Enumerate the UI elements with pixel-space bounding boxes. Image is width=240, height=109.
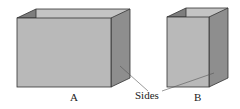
box-a-front-face — [17, 18, 111, 87]
box-a — [17, 9, 130, 87]
box-a-side-face — [111, 9, 130, 87]
open-boxes-diagram: A B Sides — [0, 0, 240, 109]
box-b-side-face — [209, 8, 228, 87]
box-a-label: A — [70, 91, 78, 103]
box-b — [167, 8, 228, 87]
box-b-front-face — [167, 17, 209, 87]
sides-annotation: Sides — [135, 89, 159, 101]
box-b-label: B — [194, 91, 201, 103]
